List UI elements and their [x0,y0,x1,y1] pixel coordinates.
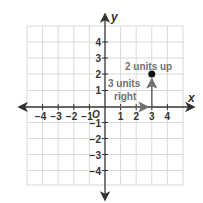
x-tick-label: −4 [35,111,47,122]
right-annotation-line1: 3 units [108,78,141,89]
x-tick-label: −3 [50,111,62,122]
y-tick-label: 4 [95,37,101,48]
x-axis-label: x [187,91,196,105]
y-tick-label: 3 [95,53,101,64]
y-tick-label: −2 [90,134,102,145]
x-tick-label: 2 [133,111,139,122]
x-tick-label: 3 [149,111,155,122]
up-annotation: 2 units up [125,61,172,72]
y-tick-label: −4 [90,166,102,177]
x-tick-labels: −4 −3 −2 −1 1 2 3 4 [35,111,171,122]
x-tick-label: −2 [66,111,78,122]
y-axis-label: y [110,10,119,24]
x-tick-label: 4 [165,111,171,122]
coordinate-plane: x y O −4 −3 −2 −1 1 2 3 4 4 3 2 1 −1 −2 … [0,0,203,203]
y-tick-label: −3 [90,150,102,161]
y-tick-label: 1 [95,85,101,96]
x-tick-label: 1 [118,111,124,122]
point-3-2 [148,71,155,78]
y-tick-label: 2 [95,69,101,80]
y-tick-label: −1 [90,118,102,129]
right-annotation-line2: right [114,91,137,102]
